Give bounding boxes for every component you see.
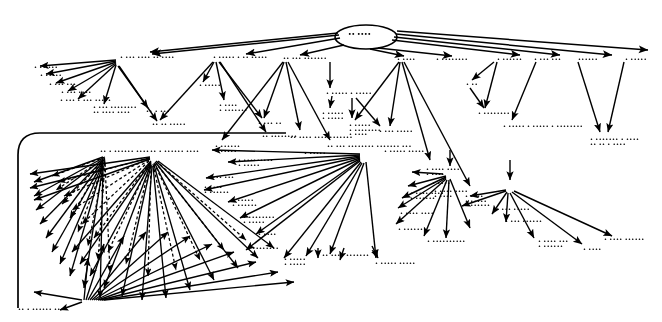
edges-level-1 bbox=[150, 31, 648, 56]
graph-canvas bbox=[0, 0, 662, 322]
edges-hub-right-a bbox=[396, 172, 470, 238]
edges-hub-right-b bbox=[462, 190, 612, 244]
edges-hub-n02 bbox=[160, 62, 266, 132]
root-node bbox=[335, 25, 397, 49]
edges-right-branch bbox=[470, 62, 624, 132]
root-node-label: •• •••• bbox=[348, 31, 371, 37]
diagram-root: •• •••• • ••• •••• •• ••••• ••••• • •• •… bbox=[0, 0, 662, 322]
edges-hub-n03 bbox=[222, 62, 330, 140]
edges-hub-mid bbox=[204, 150, 376, 258]
edges-hub-left-upper bbox=[40, 60, 157, 121]
edges-misc-vertical bbox=[318, 150, 510, 260]
